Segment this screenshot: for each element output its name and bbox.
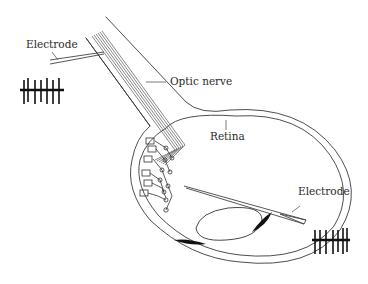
electrode-top-leader [52, 52, 58, 60]
electrode-top [50, 52, 104, 64]
retina-label: Retina [210, 130, 245, 142]
electrode-right-leader [292, 206, 300, 212]
iris-right [252, 212, 272, 232]
lens [196, 208, 262, 241]
electrode-top-label: Electrode [26, 38, 78, 50]
spike-train-left [20, 78, 64, 104]
optic-nerve-label: Optic nerve [170, 75, 232, 87]
electrode-right-label: Electrode [298, 185, 350, 197]
optic-nerve-sheath-inner [86, 38, 150, 126]
